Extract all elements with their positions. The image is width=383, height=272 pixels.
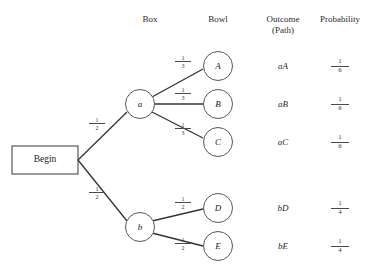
- edge-b-D: [152, 209, 203, 221]
- outcome-bE: bE: [258, 241, 308, 251]
- fraction-denominator: 2: [89, 124, 105, 130]
- fraction-numerator: 1: [89, 186, 105, 193]
- branch-prob-a-B: 1 3: [175, 87, 191, 101]
- node-label-E: E: [203, 241, 233, 251]
- fraction-denominator: 4: [331, 209, 349, 217]
- branch-prob-begin-a: 1 2: [89, 117, 105, 131]
- probability-aA: 1 6: [331, 58, 349, 74]
- outcome-aA: aA: [258, 61, 308, 71]
- fraction-denominator: 2: [175, 244, 191, 250]
- fraction-denominator: 3: [175, 129, 191, 135]
- node-label-C: C: [203, 137, 233, 147]
- fraction-denominator: 6: [331, 105, 349, 113]
- tree-graphic: [0, 0, 383, 272]
- outcome-aB: aB: [258, 99, 308, 109]
- fraction-numerator: 1: [175, 196, 191, 203]
- node-label-B: B: [203, 99, 233, 109]
- branch-prob-b-E: 1 2: [175, 237, 191, 251]
- column-header-bowl: Bowl: [203, 14, 233, 25]
- node-label-A: A: [203, 61, 233, 71]
- branch-prob-a-C: 1 3: [175, 122, 191, 136]
- probability-aB: 1 6: [331, 96, 349, 112]
- fraction-denominator: 3: [175, 94, 191, 100]
- branch-prob-b-D: 1 2: [175, 196, 191, 210]
- column-header-outcome: Outcome: [258, 14, 308, 25]
- branch-prob-begin-b: 1 2: [89, 186, 105, 200]
- fraction-denominator: 4: [331, 247, 349, 255]
- fraction-denominator: 6: [331, 67, 349, 75]
- branch-prob-a-A: 1 3: [175, 55, 191, 69]
- probability-bD: 1 4: [331, 200, 349, 216]
- outcome-aC: aC: [258, 137, 308, 147]
- fraction-numerator: 1: [175, 122, 191, 129]
- column-header-box: Box: [135, 14, 165, 25]
- fraction-numerator: 1: [175, 55, 191, 62]
- begin-box-label: Begin: [12, 154, 78, 165]
- node-label-a: a: [125, 99, 155, 109]
- node-label-b: b: [125, 222, 155, 232]
- fraction-denominator: 2: [175, 203, 191, 209]
- fraction-denominator: 3: [175, 62, 191, 68]
- fraction-numerator: 1: [175, 237, 191, 244]
- fraction-denominator: 6: [331, 143, 349, 151]
- probability-tree-diagram: Box Bowl Outcome (Path) Probability Begi…: [0, 0, 383, 272]
- column-header-outcome-path: (Path): [258, 25, 308, 36]
- node-label-D: D: [203, 203, 233, 213]
- column-header-probability: Probability: [310, 14, 370, 25]
- fraction-numerator: 1: [175, 87, 191, 94]
- probability-bE: 1 4: [331, 238, 349, 254]
- fraction-numerator: 1: [89, 117, 105, 124]
- probability-aC: 1 6: [331, 134, 349, 150]
- fraction-denominator: 2: [89, 193, 105, 199]
- outcome-bD: bD: [258, 203, 308, 213]
